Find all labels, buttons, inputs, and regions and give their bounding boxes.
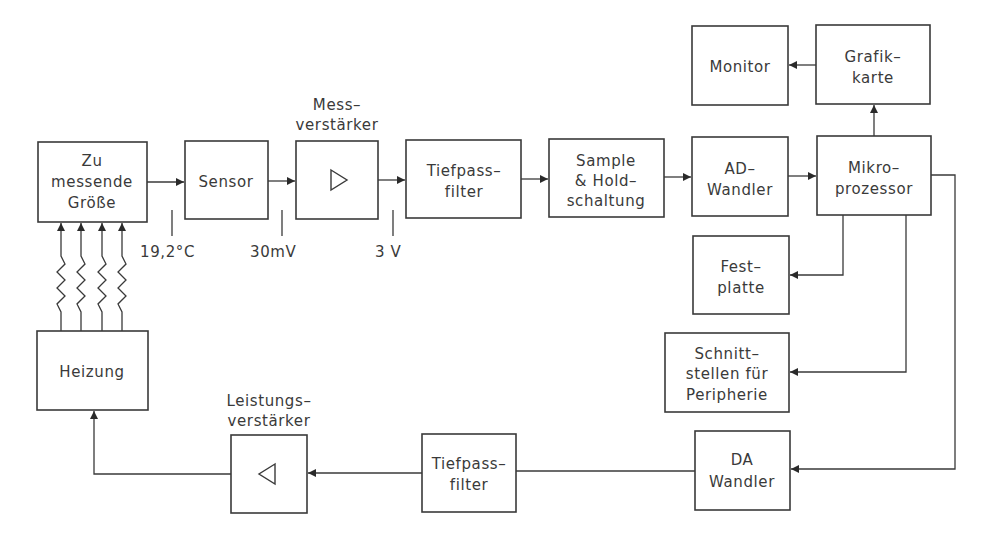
signal-value-amplified-voltage: 3 V — [375, 243, 402, 261]
svg-text:Wandler: Wandler — [709, 473, 775, 491]
svg-text:Mess–: Mess– — [313, 96, 361, 114]
heat-radiation-arrows — [57, 223, 126, 331]
block-sensor: Sensor — [185, 141, 268, 219]
svg-text:Größe: Größe — [68, 194, 116, 212]
svg-text:prozessor: prozessor — [835, 180, 913, 198]
svg-text:platte: platte — [717, 279, 764, 297]
block-ad-converter: AD– Wandler — [692, 137, 788, 216]
block-lowpass-filter-bottom: Tiefpass– filter — [422, 434, 516, 512]
svg-text:Wandler: Wandler — [707, 181, 773, 199]
svg-text:karte: karte — [852, 69, 894, 87]
arrow-microprocessor-to-da — [791, 175, 955, 469]
svg-text:Heizung: Heizung — [59, 363, 124, 381]
signal-value-sensor-voltage: 30mV — [250, 243, 296, 261]
block-interfaces: Schnitt– stellen für Peripherie — [665, 333, 789, 412]
svg-text:Tiefpass–: Tiefpass– — [431, 455, 507, 473]
svg-text:Fest–: Fest– — [720, 258, 761, 276]
arrow-microprocessor-to-interfaces — [790, 215, 906, 372]
svg-text:Leistungs–: Leistungs– — [226, 392, 311, 410]
svg-text:Sample: Sample — [576, 152, 636, 170]
svg-text:messende: messende — [51, 173, 133, 191]
svg-text:Monitor: Monitor — [709, 58, 770, 76]
heat-arrow — [77, 223, 85, 331]
block-microprocessor: Mikro– prozessor — [817, 136, 931, 215]
block-hard-disk: Fest– platte — [693, 236, 789, 314]
block-da-converter: DA Wandler — [695, 431, 790, 510]
svg-text:& Hold–: & Hold– — [575, 172, 637, 190]
svg-text:schaltung: schaltung — [567, 192, 646, 210]
svg-text:Peripherie: Peripherie — [686, 386, 768, 404]
heat-arrow — [98, 223, 106, 331]
svg-text:verstärker: verstärker — [228, 412, 311, 430]
svg-text:Zu: Zu — [82, 152, 103, 170]
block-power-amplifier: Leistungs– verstärker — [226, 392, 311, 513]
svg-text:Mikro–: Mikro– — [848, 159, 900, 177]
arrow-poweramp-to-heater — [94, 411, 231, 474]
block-lowpass-filter-top: Tiefpass– filter — [406, 140, 521, 218]
signal-value-temperature: 19,2°C — [140, 243, 195, 261]
heat-arrow — [118, 223, 126, 331]
svg-text:Tiefpass–: Tiefpass– — [426, 162, 502, 180]
block-monitor: Monitor — [692, 26, 788, 105]
svg-text:Sensor: Sensor — [198, 173, 253, 191]
svg-text:AD–: AD– — [724, 160, 755, 178]
block-measured-quantity: Zu messende Größe — [38, 142, 147, 222]
arrow-microprocessor-to-harddisk — [790, 215, 843, 275]
block-heater: Heizung — [37, 331, 148, 410]
block-graphics-card: Grafik– karte — [816, 25, 930, 104]
svg-text:filter: filter — [450, 476, 489, 494]
connections — [57, 65, 955, 474]
block-measuring-amplifier: Mess– verstärker — [296, 96, 379, 219]
block-diagram: 19,2°C 30mV 3 V Zu messende Größe Sensor… — [0, 0, 984, 536]
svg-text:stellen für: stellen für — [686, 365, 769, 383]
svg-text:filter: filter — [445, 183, 484, 201]
svg-text:Grafik–: Grafik– — [845, 48, 902, 66]
svg-text:verstärker: verstärker — [296, 116, 379, 134]
heat-arrow — [57, 223, 65, 331]
block-sample-hold: Sample & Hold– schaltung — [549, 139, 664, 217]
svg-text:Schnitt–: Schnitt– — [694, 345, 759, 363]
svg-text:DA: DA — [731, 451, 754, 469]
